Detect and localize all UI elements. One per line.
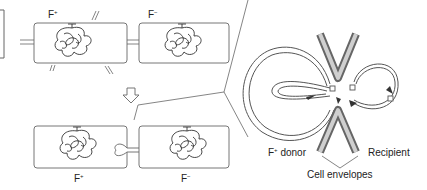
cell-envelopes-label: Cell envelopes bbox=[307, 170, 373, 180]
conjugation-diagram bbox=[0, 0, 427, 190]
donor-label: F+ donor bbox=[268, 148, 306, 158]
bottom-left-cell-label: F+ bbox=[74, 174, 84, 184]
donor-plasmid bbox=[243, 47, 334, 140]
partial-box bbox=[0, 10, 4, 58]
recipient-plasmid bbox=[349, 64, 398, 109]
cell-envelope-bottom bbox=[320, 110, 356, 152]
top-right-cell-label: F− bbox=[148, 10, 158, 20]
bottom-right-cell-label: F− bbox=[181, 174, 191, 184]
envelope-pointer bbox=[322, 156, 358, 168]
top-left-cell-label: F+ bbox=[48, 10, 58, 20]
recipient-label: Recipient bbox=[368, 148, 410, 158]
down-arrow-icon bbox=[123, 88, 139, 103]
top-right-cell bbox=[139, 23, 229, 63]
callout-lines bbox=[134, 0, 248, 137]
bottom-left-cell bbox=[34, 126, 127, 168]
transfer-arrow-icon bbox=[336, 97, 341, 104]
top-left-cell bbox=[20, 11, 127, 74]
bottom-right-cell bbox=[139, 126, 229, 168]
